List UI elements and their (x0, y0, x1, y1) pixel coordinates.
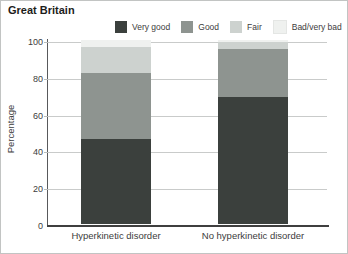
y-tick-80 (44, 79, 48, 80)
bar-segment-bad-very-bad (81, 40, 151, 47)
y-tick-60 (44, 116, 48, 117)
bar-segment-very-good (218, 97, 288, 224)
legend-swatch-bad-very-bad (273, 20, 287, 34)
legend-label: Very good (132, 22, 170, 32)
bar-segment-fair (218, 42, 288, 49)
y-tick-100 (44, 42, 48, 43)
stacked-bar-0 (81, 40, 151, 224)
y-axis-title: Percentage (5, 93, 17, 165)
legend-label: Bad/very bad (292, 22, 342, 32)
y-tick-label-100: 100 (21, 37, 43, 47)
bar-segment-very-good (81, 139, 151, 224)
legend-label: Good (198, 22, 219, 32)
y-tick-label-20: 20 (21, 184, 43, 194)
y-tick-40 (44, 152, 48, 153)
legend-item-very-good: Very good (115, 21, 170, 33)
legend-item-fair: Fair (230, 21, 262, 33)
y-tick-label-60: 60 (21, 111, 43, 121)
bar-segment-good (218, 49, 288, 97)
y-tick-label-0: 0 (21, 221, 43, 231)
legend-label: Fair (247, 22, 262, 32)
y-tick-label-80: 80 (21, 74, 43, 84)
chart-title: Great Britain (8, 4, 75, 16)
chart-panel: Great Britain Very good Good Fair Bad/ve… (0, 0, 348, 254)
legend-swatch-very-good (115, 21, 127, 33)
stacked-bar-1 (218, 40, 288, 224)
x-axis-line (47, 225, 329, 227)
legend-swatch-good (181, 21, 193, 33)
legend-item-bad-very-bad: Bad/very bad (273, 20, 342, 34)
chart-legend: Very good Good Fair Bad/very bad (115, 20, 342, 34)
x-category-label: No hyperkinetic disorder (183, 230, 323, 241)
legend-swatch-fair (230, 21, 242, 33)
y-axis-line (47, 39, 48, 226)
x-category-label: Hyperkinetic disorder (46, 230, 186, 241)
bar-segment-fair (81, 47, 151, 73)
legend-item-good: Good (181, 21, 219, 33)
bar-segment-good (81, 73, 151, 139)
y-tick-label-40: 40 (21, 147, 43, 157)
y-tick-20 (44, 189, 48, 190)
